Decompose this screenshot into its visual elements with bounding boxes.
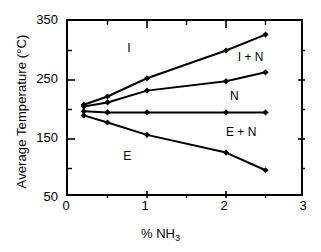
x-tick-label-1: 1 bbox=[133, 198, 157, 213]
series-line-3 bbox=[84, 115, 266, 170]
data-point-marker bbox=[144, 88, 150, 94]
data-point-marker bbox=[223, 149, 229, 155]
region-label-n: N bbox=[230, 89, 239, 103]
y-tick-label-50: 50 bbox=[16, 189, 58, 204]
data-point-marker bbox=[262, 69, 268, 75]
data-point-marker bbox=[104, 99, 110, 105]
data-point-marker bbox=[223, 109, 229, 115]
series-line-2 bbox=[84, 111, 266, 112]
x-axis-label: % NH3 bbox=[0, 226, 321, 243]
data-series-layer bbox=[68, 21, 305, 198]
data-point-marker bbox=[104, 119, 110, 125]
x-axis-label-subscript: 3 bbox=[175, 233, 180, 243]
data-point-marker bbox=[262, 167, 268, 173]
region-label-i-plus-n: I + N bbox=[238, 50, 264, 64]
y-tick-label-350: 350 bbox=[16, 12, 58, 27]
data-point-marker bbox=[144, 109, 150, 115]
data-point-marker bbox=[223, 78, 229, 84]
data-point-marker bbox=[262, 31, 268, 37]
data-point-marker bbox=[223, 47, 229, 53]
region-label-e-plus-n: E + N bbox=[226, 125, 256, 139]
region-label-i: I bbox=[127, 41, 130, 55]
y-tick-label-150: 150 bbox=[16, 130, 58, 145]
x-axis-label-text: % NH bbox=[141, 226, 175, 241]
data-point-marker bbox=[104, 93, 110, 99]
data-point-marker bbox=[144, 75, 150, 81]
x-tick-label-0: 0 bbox=[54, 198, 78, 213]
y-axis-label: Average Temperature (°C) bbox=[14, 17, 29, 207]
region-label-e: E bbox=[123, 149, 131, 163]
phase-diagram-figure: Average Temperature (°C) % NH3 350 250 1… bbox=[0, 0, 321, 252]
data-point-marker bbox=[104, 109, 110, 115]
x-tick-label-2: 2 bbox=[212, 198, 236, 213]
x-tick-label-3: 3 bbox=[291, 198, 315, 213]
data-point-marker bbox=[262, 109, 268, 115]
y-tick-label-250: 250 bbox=[16, 71, 58, 86]
plot-area: II + NNE + NE bbox=[66, 19, 303, 196]
data-point-marker bbox=[81, 112, 87, 118]
data-point-marker bbox=[144, 132, 150, 138]
